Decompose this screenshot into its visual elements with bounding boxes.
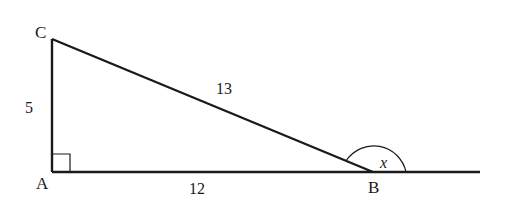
vertex-label-a: A (36, 174, 49, 193)
side-bc-hypotenuse (52, 39, 373, 172)
side-label-ab: 12 (189, 180, 205, 197)
angle-label-x: x (379, 154, 387, 171)
angle-x-arc (346, 146, 406, 172)
vertex-label-c: C (35, 23, 46, 42)
diagram-stage: C A B 5 12 13 x (0, 0, 510, 206)
triangle-diagram: C A B 5 12 13 x (0, 0, 510, 206)
side-label-bc: 13 (216, 80, 232, 97)
side-label-ac: 5 (25, 99, 33, 116)
right-angle-marker (52, 154, 70, 172)
vertex-label-b: B (368, 178, 379, 197)
